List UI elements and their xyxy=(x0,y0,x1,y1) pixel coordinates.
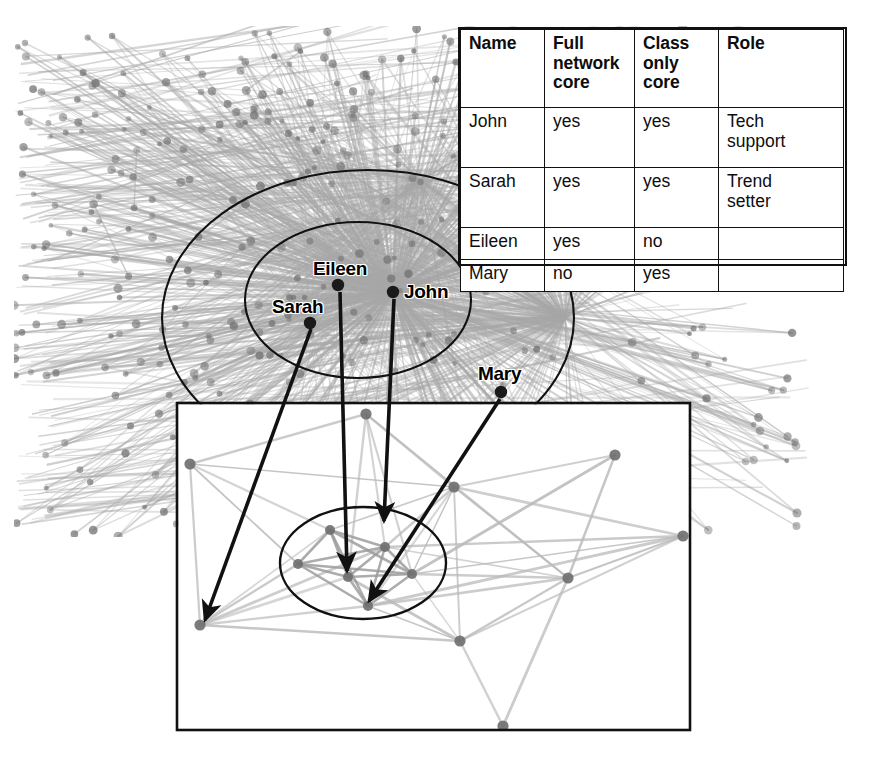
cell-full-network-core: no xyxy=(545,260,635,292)
cell-name: Sarah xyxy=(461,168,545,228)
column-header-full-network-core: Full network core xyxy=(545,30,635,108)
node-label-john: John xyxy=(404,281,448,303)
header-line: core xyxy=(553,72,590,92)
role-line: setter xyxy=(727,191,771,211)
cell-role xyxy=(719,260,844,292)
node-label-mary: Mary xyxy=(478,363,521,385)
role-line: Tech xyxy=(727,111,764,131)
column-header-name: Name xyxy=(461,30,545,108)
cell-name: Eileen xyxy=(461,228,545,260)
table-row: John yes yes Tech support xyxy=(461,108,844,168)
cell-class-only-core: no xyxy=(635,228,719,260)
cell-full-network-core: yes xyxy=(545,108,635,168)
core-membership-table: Name Full network core Class only core R… xyxy=(460,29,844,292)
node-label-sarah: Sarah xyxy=(272,296,323,318)
header-line: network xyxy=(553,53,619,73)
cell-full-network-core: yes xyxy=(545,168,635,228)
figure-root: EileenJohnSarahMary Name Full network co… xyxy=(0,0,883,768)
cell-role: Tech support xyxy=(719,108,844,168)
role-line: Trend xyxy=(727,171,772,191)
column-header-role: Role xyxy=(719,30,844,108)
table-header-row: Name Full network core Class only core R… xyxy=(461,30,844,108)
table-row: Eileen yes no xyxy=(461,228,844,260)
node-label-eileen: Eileen xyxy=(313,258,367,280)
cell-name: John xyxy=(461,108,545,168)
header-line: Full xyxy=(553,33,584,53)
header-line: Class xyxy=(643,33,689,53)
cell-class-only-core: yes xyxy=(635,108,719,168)
column-header-class-only-core: Class only core xyxy=(635,30,719,108)
cell-name: Mary xyxy=(461,260,545,292)
cell-class-only-core: yes xyxy=(635,168,719,228)
table-row: Sarah yes yes Trend setter xyxy=(461,168,844,228)
header-line: only xyxy=(643,53,679,73)
header-line: core xyxy=(643,72,680,92)
table-row: Mary no yes xyxy=(461,260,844,292)
header-line: Name xyxy=(469,33,516,53)
cell-role: Trend setter xyxy=(719,168,844,228)
header-line: Role xyxy=(727,33,765,53)
cell-role xyxy=(719,228,844,260)
role-line: support xyxy=(727,131,785,151)
cell-full-network-core: yes xyxy=(545,228,635,260)
cell-class-only-core: yes xyxy=(635,260,719,292)
